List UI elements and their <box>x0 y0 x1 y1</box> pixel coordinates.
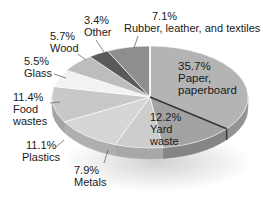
label-food-wastes: 11.4%Foodwastes <box>13 91 47 127</box>
label-other: 3.4%Other <box>84 14 112 38</box>
label-plastics: 11.1%Plastics <box>22 139 60 163</box>
label-metals: 7.9%Metals <box>74 164 106 188</box>
label-paper: 35.7%Paper,paperboard <box>178 60 237 96</box>
label-rubber-leather-textiles: 7.1%Rubber, leather, and textiles <box>124 10 260 34</box>
label-glass: 5.5%Glass <box>24 55 52 79</box>
label-yard-waste: 12.2%Yardwaste <box>150 111 181 147</box>
label-wood: 5.7%Wood <box>50 30 79 54</box>
